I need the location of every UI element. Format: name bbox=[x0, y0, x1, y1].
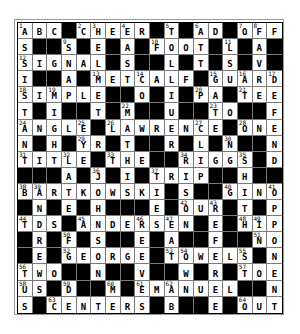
letter-cell[interactable]: 13M bbox=[91, 71, 106, 87]
letter-cell[interactable]: D bbox=[267, 152, 282, 168]
letter-cell[interactable]: S bbox=[18, 39, 33, 55]
letter-cell[interactable]: E bbox=[91, 87, 106, 103]
letter-cell[interactable]: L bbox=[165, 71, 180, 87]
letter-cell[interactable]: H bbox=[121, 152, 136, 168]
letter-cell[interactable]: 1A bbox=[18, 23, 33, 39]
letter-cell[interactable]: R bbox=[165, 136, 180, 152]
letter-cell[interactable]: T bbox=[238, 200, 253, 216]
letter-cell[interactable]: 52G bbox=[62, 248, 77, 264]
letter-cell[interactable]: R bbox=[165, 168, 180, 184]
letter-cell[interactable]: N bbox=[179, 281, 194, 297]
letter-cell[interactable]: T bbox=[121, 71, 136, 87]
letter-cell[interactable]: D bbox=[33, 216, 48, 232]
letter-cell[interactable]: S bbox=[135, 297, 150, 313]
letter-cell[interactable]: E bbox=[135, 152, 150, 168]
letter-cell[interactable]: T bbox=[194, 55, 209, 71]
letter-cell[interactable]: O bbox=[91, 248, 106, 264]
letter-cell[interactable]: S bbox=[47, 216, 62, 232]
letter-cell[interactable]: M bbox=[150, 281, 165, 297]
letter-cell[interactable]: P bbox=[267, 200, 282, 216]
letter-cell[interactable]: P bbox=[62, 87, 77, 103]
letter-cell[interactable]: N bbox=[267, 136, 282, 152]
letter-cell[interactable]: 51N bbox=[253, 232, 268, 248]
letter-cell[interactable]: 22M bbox=[121, 103, 136, 119]
letter-cell[interactable]: 63C bbox=[47, 297, 62, 313]
letter-cell[interactable]: 17D bbox=[267, 71, 282, 87]
letter-cell[interactable]: W bbox=[194, 248, 209, 264]
letter-cell[interactable]: 28O bbox=[238, 120, 253, 136]
letter-cell[interactable]: T bbox=[121, 136, 136, 152]
letter-cell[interactable]: O bbox=[253, 264, 268, 280]
letter-cell[interactable]: 41O bbox=[267, 184, 282, 200]
letter-cell[interactable]: U bbox=[253, 297, 268, 313]
letter-cell[interactable]: N bbox=[91, 216, 106, 232]
letter-cell[interactable]: I bbox=[179, 168, 194, 184]
letter-cell[interactable]: E bbox=[209, 248, 224, 264]
letter-cell[interactable]: 25E bbox=[77, 120, 92, 136]
letter-cell[interactable]: K bbox=[135, 184, 150, 200]
letter-cell[interactable]: 54O bbox=[179, 248, 194, 264]
letter-cell[interactable]: 60M bbox=[106, 281, 121, 297]
letter-cell[interactable]: E bbox=[150, 200, 165, 216]
letter-cell[interactable]: S bbox=[179, 184, 194, 200]
letter-cell[interactable]: 30N bbox=[223, 136, 238, 152]
letter-cell[interactable]: 40G bbox=[223, 184, 238, 200]
letter-cell[interactable]: E bbox=[106, 23, 121, 39]
letter-cell[interactable]: 27C bbox=[194, 120, 209, 136]
letter-cell[interactable]: A bbox=[150, 71, 165, 87]
letter-cell[interactable]: 58U bbox=[18, 281, 33, 297]
letter-cell[interactable]: 9S bbox=[62, 39, 77, 55]
letter-cell[interactable]: N bbox=[179, 216, 194, 232]
letter-cell[interactable]: E bbox=[209, 216, 224, 232]
letter-cell[interactable]: L bbox=[62, 120, 77, 136]
letter-cell[interactable]: I bbox=[194, 152, 209, 168]
letter-cell[interactable]: A bbox=[121, 39, 136, 55]
letter-cell[interactable]: 33T bbox=[106, 152, 121, 168]
letter-cell[interactable]: H bbox=[238, 168, 253, 184]
letter-cell[interactable]: R bbox=[253, 71, 268, 87]
letter-cell[interactable]: A bbox=[165, 232, 180, 248]
letter-cell[interactable]: A bbox=[253, 39, 268, 55]
letter-cell[interactable]: 57T bbox=[238, 264, 253, 280]
letter-cell[interactable]: 34R bbox=[179, 152, 194, 168]
letter-cell[interactable]: P bbox=[267, 216, 282, 232]
letter-cell[interactable]: R bbox=[47, 184, 62, 200]
letter-cell[interactable]: S bbox=[223, 55, 238, 71]
letter-cell[interactable]: R bbox=[209, 264, 224, 280]
letter-cell[interactable]: 53T bbox=[165, 248, 180, 264]
letter-cell[interactable]: 56T bbox=[18, 264, 33, 280]
letter-cell[interactable]: 48H bbox=[238, 216, 253, 232]
letter-cell[interactable]: O bbox=[135, 87, 150, 103]
letter-cell[interactable]: A bbox=[62, 168, 77, 184]
letter-cell[interactable]: N bbox=[267, 281, 282, 297]
letter-cell[interactable]: W bbox=[179, 264, 194, 280]
letter-cell[interactable]: I bbox=[165, 87, 180, 103]
letter-cell[interactable]: I bbox=[47, 103, 62, 119]
letter-cell[interactable]: H bbox=[47, 136, 62, 152]
letter-cell[interactable]: 26L bbox=[106, 120, 121, 136]
letter-cell[interactable]: I bbox=[33, 55, 48, 71]
letter-cell[interactable]: E bbox=[62, 297, 77, 313]
letter-cell[interactable]: 4E bbox=[121, 23, 136, 39]
letter-cell[interactable]: I bbox=[18, 71, 33, 87]
letter-cell[interactable]: A bbox=[62, 71, 77, 87]
letter-cell[interactable]: 19M bbox=[47, 87, 62, 103]
letter-cell[interactable]: H bbox=[91, 200, 106, 216]
letter-cell[interactable]: R bbox=[106, 248, 121, 264]
letter-cell[interactable]: 44T bbox=[18, 216, 33, 232]
letter-cell[interactable]: 16A bbox=[238, 71, 253, 87]
letter-cell[interactable]: A bbox=[121, 120, 136, 136]
letter-cell[interactable]: 29Y bbox=[77, 136, 92, 152]
letter-cell[interactable]: E bbox=[267, 120, 282, 136]
letter-cell[interactable]: 38B bbox=[18, 184, 33, 200]
letter-cell[interactable]: S bbox=[121, 184, 136, 200]
letter-cell[interactable]: E bbox=[77, 152, 92, 168]
letter-cell[interactable]: W bbox=[135, 120, 150, 136]
letter-cell[interactable]: I bbox=[33, 87, 48, 103]
letter-cell[interactable]: 59D bbox=[62, 281, 77, 297]
letter-cell[interactable]: 6A bbox=[194, 23, 209, 39]
letter-cell[interactable]: P bbox=[194, 168, 209, 184]
letter-cell[interactable]: T bbox=[62, 184, 77, 200]
letter-cell[interactable]: W bbox=[33, 264, 48, 280]
letter-cell[interactable]: 12S bbox=[18, 55, 33, 71]
